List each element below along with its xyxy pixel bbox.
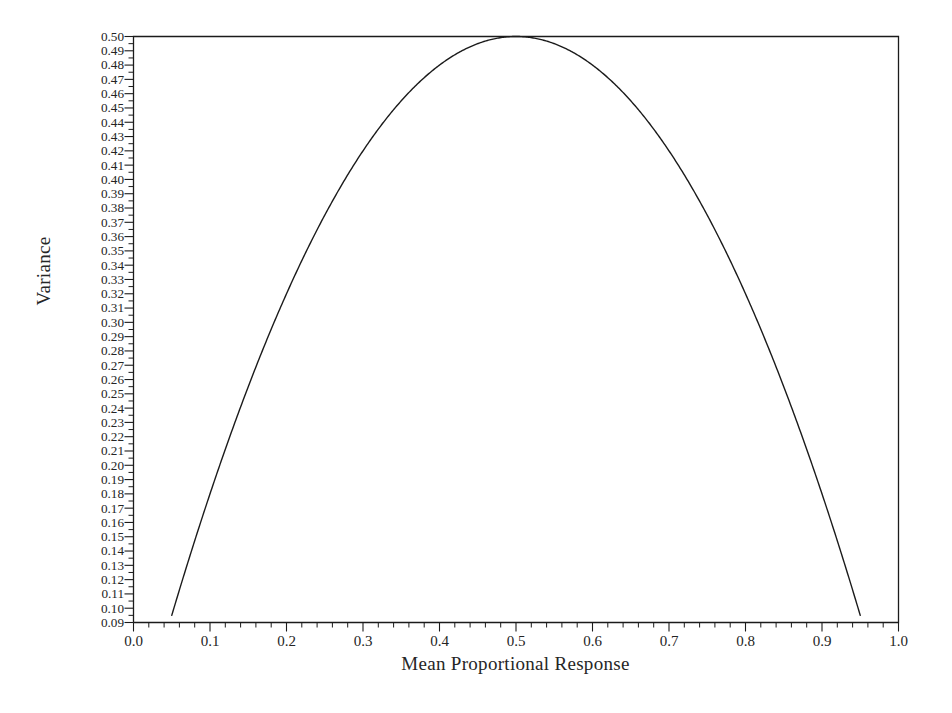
- chart-figure: Variance Mean Proportional Response 0.50…: [0, 0, 952, 713]
- x-axis-tick-label: 0.6: [563, 633, 623, 650]
- x-axis-tick-label: 0.3: [333, 633, 393, 650]
- x-axis-tick-label: 0.0: [104, 633, 164, 650]
- x-axis-tick-label: 0.8: [716, 633, 776, 650]
- x-axis-tick-label: 0.1: [180, 633, 240, 650]
- x-axis-tick-label: 0.7: [639, 633, 699, 650]
- x-axis-tick-label: 0.2: [257, 633, 317, 650]
- x-axis-tick-label: 0.5: [486, 633, 546, 650]
- x-axis-tick-label: 0.4: [410, 633, 470, 650]
- x-axis-tick-label: 0.9: [792, 633, 852, 650]
- x-axis-tick-labels: 0.00.10.20.30.40.50.60.70.80.91.0: [0, 0, 952, 713]
- x-axis-tick-label: 1.0: [869, 633, 929, 650]
